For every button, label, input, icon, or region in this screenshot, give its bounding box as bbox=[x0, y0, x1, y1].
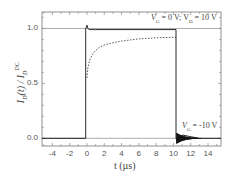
x-axis-label: t (µs) bbox=[114, 160, 136, 171]
annotation-top: VG = 0 V; VD = 10 V bbox=[151, 13, 217, 24]
y-tick-label: 1.0 bbox=[20, 23, 38, 32]
x-tick-label: 6 bbox=[131, 149, 147, 158]
ringing-oscillation bbox=[176, 133, 201, 144]
x-tick-label: 14 bbox=[200, 149, 216, 158]
x-tick-label: 10 bbox=[165, 149, 181, 158]
x-tick-label: 8 bbox=[148, 149, 164, 158]
x-tick-label: 0 bbox=[79, 149, 95, 158]
x-tick-label: 4 bbox=[114, 149, 130, 158]
dashed-series-line bbox=[87, 37, 176, 78]
y-tick-label: 0.0 bbox=[20, 133, 38, 142]
x-tick-label: 12 bbox=[183, 149, 199, 158]
x-tick-label: 2 bbox=[96, 149, 112, 158]
y-tick-label: 0.5 bbox=[20, 78, 38, 87]
x-tick-label: -4 bbox=[44, 149, 60, 158]
annotation-bottom: VG = -10 V bbox=[182, 121, 217, 132]
x-tick-label: -2 bbox=[62, 149, 78, 158]
